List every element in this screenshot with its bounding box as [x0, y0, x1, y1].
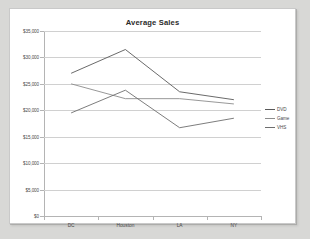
x-axis-category-label: DC — [68, 223, 75, 228]
legend-item-label: VHS — [277, 125, 286, 130]
y-axis-tick-label: $25,000 — [23, 81, 39, 86]
y-axis-tick-label: $10,000 — [23, 161, 39, 166]
legend-item-game[interactable]: Game — [265, 114, 295, 123]
series-lines — [44, 31, 261, 216]
legend-line-icon — [265, 109, 275, 110]
chart-object-frame[interactable]: Average Sales $35,000$30,000$25,000$20,0… — [9, 8, 296, 224]
series-line-game — [71, 84, 234, 104]
y-axis-tick-label: $35,000 — [23, 29, 39, 34]
chart-canvas: Average Sales $35,000$30,000$25,000$20,0… — [13, 12, 292, 220]
y-axis-tick-label: $20,000 — [23, 108, 39, 113]
x-axis-tick — [98, 216, 99, 220]
y-axis-tick-label: $15,000 — [23, 134, 39, 139]
legend-item-dvd[interactable]: DVD — [265, 105, 295, 114]
plot-wrapper: $35,000$30,000$25,000$20,000$15,000$10,0… — [13, 12, 292, 220]
x-axis-tick — [44, 216, 45, 220]
y-axis-tick-label: $30,000 — [23, 55, 39, 60]
legend-item-label: DVD — [277, 107, 287, 112]
x-axis-tick — [207, 216, 208, 220]
legend-line-icon — [265, 127, 275, 128]
y-axis-tick-label: $0 — [34, 214, 39, 219]
legend-item-vhs[interactable]: VHS — [265, 123, 295, 132]
legend-line-icon — [265, 118, 275, 119]
series-line-dvd — [71, 50, 234, 100]
x-axis-tick — [153, 216, 154, 220]
chart-screenshot-root: Average Sales $35,000$30,000$25,000$20,0… — [0, 0, 310, 239]
x-axis-category-label: Houston — [116, 223, 134, 228]
legend-item-label: Game — [277, 116, 289, 121]
plot-area: $35,000$30,000$25,000$20,000$15,000$10,0… — [44, 31, 261, 216]
x-axis-tick — [261, 216, 262, 220]
x-axis-category-label: NY — [231, 223, 238, 228]
chart-legend: DVDGameVHS — [265, 105, 295, 132]
y-axis-tick-label: $5,000 — [26, 187, 39, 192]
x-axis-category-label: LA — [177, 223, 183, 228]
